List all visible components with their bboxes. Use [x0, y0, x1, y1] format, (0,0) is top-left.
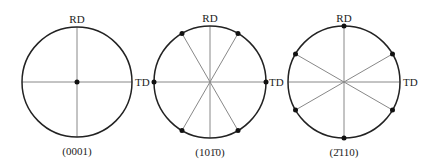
pole-dot [264, 80, 269, 85]
pole-dot-center [75, 80, 80, 85]
pole-dot [180, 31, 185, 36]
rd-axis-label: RD [69, 13, 84, 25]
pole-dot [293, 108, 298, 113]
rd-axis-label: RD [336, 12, 351, 24]
plane-caption: (101̄0) [195, 146, 225, 159]
pole-dot [390, 108, 395, 113]
td-axis-label: TD [135, 76, 150, 88]
pole-dot [236, 128, 241, 133]
plane-caption: (2̄110) [330, 146, 359, 159]
pole-dot [390, 52, 395, 57]
pole-dot [236, 31, 241, 36]
pole-figure-panel: RDTD(101̄0) [152, 12, 284, 159]
pole-dot [342, 136, 347, 141]
pole-dot [180, 128, 185, 133]
td-axis-label: TD [403, 76, 418, 88]
pole-figure-panel: RDTD(0001) [22, 13, 150, 158]
td-axis-label: TD [269, 76, 284, 88]
pole-dot [342, 24, 347, 29]
pole-figure-panel: RDTD(2̄110) [288, 12, 418, 159]
plane-caption: (0001) [62, 145, 92, 158]
rd-axis-label: RD [202, 12, 217, 24]
pole-dot [293, 52, 298, 57]
pole-figure-diagram: RDTD(0001)RDTD(101̄0)RDTD(2̄110) [0, 0, 427, 166]
pole-dot [152, 80, 157, 85]
